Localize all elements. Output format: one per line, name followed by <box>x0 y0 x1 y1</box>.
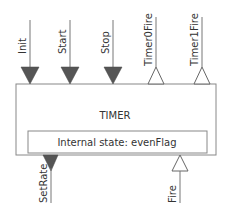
port-stop: Stop <box>100 20 122 84</box>
port-timer0fire: Timer0Fire <box>143 13 164 84</box>
input-arrow-icon <box>104 67 122 84</box>
port-label-start: Start <box>57 29 68 54</box>
port-label-setrate: SetRate <box>38 164 49 203</box>
internal-state-label: Internal state: evenFlag <box>57 137 176 148</box>
port-label-fire: Fire <box>167 185 178 203</box>
port-init: Init <box>17 20 39 84</box>
port-fire: Fire <box>167 155 188 203</box>
port-label-init: Init <box>17 38 28 54</box>
timer-block-diagram: TIMER Internal state: evenFlag Init Star… <box>0 0 227 217</box>
block-title: TIMER <box>99 110 131 121</box>
port-setrate: SetRate <box>38 155 58 203</box>
input-arrow-icon <box>21 67 39 84</box>
output-arrow-icon <box>148 67 164 84</box>
port-label-timer1fire: Timer1Fire <box>189 13 200 67</box>
port-label-timer0fire: Timer0Fire <box>143 13 154 67</box>
output-arrow-icon <box>172 155 188 171</box>
port-label-stop: Stop <box>100 31 111 54</box>
output-arrow-icon <box>194 67 210 84</box>
port-timer1fire: Timer1Fire <box>189 13 210 84</box>
port-start: Start <box>57 20 79 84</box>
input-arrow-icon <box>61 67 79 84</box>
